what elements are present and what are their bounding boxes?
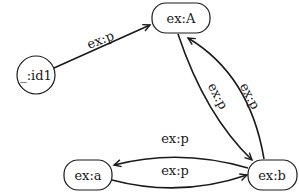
- node-A: ex:A: [152, 3, 210, 33]
- rdf-graph-diagram: ex:p ex:p ex:p ex:p ex:p _:id1 ex:A ex:a…: [0, 0, 299, 196]
- edge-id1-to-A: ex:p: [54, 25, 150, 68]
- edge-a-to-b: ex:p: [112, 163, 247, 188]
- edge-label: ex:p: [205, 80, 231, 112]
- edge-label: ex:p: [161, 163, 189, 178]
- node-label: ex:A: [167, 11, 196, 26]
- node-id1: _:id1: [17, 56, 55, 94]
- node-label: ex:a: [74, 168, 101, 183]
- edge-label: ex:p: [161, 131, 189, 146]
- node-b: ex:b: [248, 160, 297, 190]
- edge-label: ex:p: [237, 80, 263, 112]
- edge-label: ex:p: [85, 28, 116, 52]
- node-a: ex:a: [64, 160, 112, 190]
- node-label: ex:b: [258, 168, 286, 183]
- node-label: _:id1: [20, 68, 52, 83]
- edge-A-to-b: ex:p: [178, 34, 252, 160]
